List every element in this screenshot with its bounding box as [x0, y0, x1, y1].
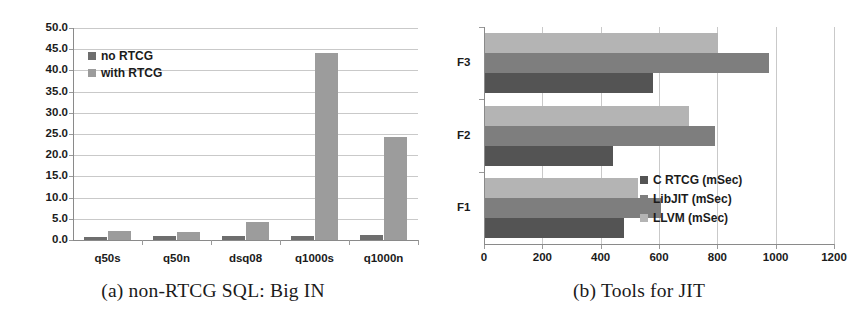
x-axis-tick-mark: [142, 240, 143, 245]
y-tick-label: F3: [457, 57, 470, 69]
y-tick-label: 20.0: [22, 149, 68, 161]
bar: [246, 222, 269, 240]
bar: [485, 33, 718, 53]
gridline-horizontal: [73, 176, 418, 177]
bar: [315, 53, 338, 240]
chart-panel-a: 0.05.010.015.020.025.030.035.040.045.050…: [0, 0, 426, 328]
x-tick-label: 600: [629, 252, 689, 264]
figure-caption-b: (b) Tools for JIT: [426, 280, 852, 302]
legend-label: LibJIT (mSec): [653, 193, 732, 205]
legend-item: C RTCG (mSec): [640, 170, 742, 189]
x-tick-label: q50n: [137, 253, 217, 265]
x-tick-label: 1200: [804, 252, 852, 264]
x-axis-tick-mark: [418, 240, 419, 245]
gridline-horizontal: [73, 219, 418, 220]
y-tick-label: 35.0: [22, 86, 68, 98]
y-tick-label: 30.0: [22, 107, 68, 119]
bar: [485, 146, 613, 166]
gridline-horizontal: [73, 28, 418, 29]
bar: [485, 53, 769, 73]
y-tick-label: 15.0: [22, 170, 68, 182]
x-tick-label: 800: [687, 252, 747, 264]
gridline-vertical: [776, 27, 777, 244]
bar: [291, 236, 314, 240]
y-axis-line: [73, 28, 74, 240]
y-tick-label: 5.0: [22, 213, 68, 225]
figure-row: 0.05.010.015.020.025.030.035.040.045.050…: [0, 0, 852, 328]
x-axis-tick-mark: [349, 240, 350, 245]
legend-label: with RTCG: [101, 67, 162, 79]
bar: [222, 236, 245, 240]
y-tick-label: 40.0: [22, 64, 68, 76]
legend-item: no RTCG: [88, 47, 162, 64]
x-tick-label: 0: [454, 252, 514, 264]
x-axis-tick-mark: [211, 240, 212, 245]
bar: [485, 198, 661, 218]
legend-a: no RTCG with RTCG: [88, 47, 162, 81]
legend-item: LibJIT (mSec): [640, 189, 742, 208]
legend-label: LLVM (mSec): [653, 212, 728, 224]
legend-swatch-icon: [640, 214, 648, 222]
y-axis-tick-mark: [479, 27, 484, 28]
gridline-horizontal: [73, 134, 418, 135]
gridline-horizontal: [73, 92, 418, 93]
x-axis-line: [484, 244, 834, 245]
legend-swatch-icon: [640, 195, 648, 203]
bar: [485, 73, 653, 93]
x-tick-label: dsq08: [206, 253, 286, 265]
x-tick-label: q1000n: [344, 253, 424, 265]
bar: [485, 126, 715, 146]
x-tick-label: q50s: [68, 253, 148, 265]
gridline-horizontal: [73, 155, 418, 156]
bar: [384, 137, 407, 240]
y-tick-label: F1: [457, 202, 470, 214]
legend-swatch-icon: [640, 176, 648, 184]
figure-caption-a: (a) non-RTCG SQL: Big IN: [0, 280, 426, 302]
chart-panel-b: F1F2F3 020040060080010001200 C RTCG (mSe…: [426, 0, 852, 328]
gridline-horizontal: [73, 113, 418, 114]
bar: [177, 232, 200, 240]
y-axis-tick-mark: [69, 240, 73, 241]
bar: [360, 235, 383, 240]
legend-label: C RTCG (mSec): [653, 174, 742, 186]
bar: [108, 231, 131, 240]
y-tick-label: 50.0: [22, 22, 68, 34]
bar: [84, 237, 107, 240]
bar: [485, 178, 638, 198]
y-tick-label: 45.0: [22, 43, 68, 55]
bar: [485, 218, 624, 238]
y-tick-label: 0.0: [22, 234, 68, 246]
x-tick-label: 1000: [746, 252, 806, 264]
bar: [485, 106, 689, 126]
y-tick-label: 25.0: [22, 128, 68, 140]
x-tick-label: 200: [512, 252, 572, 264]
gridline-horizontal: [73, 240, 418, 241]
legend-b: C RTCG (mSec) LibJIT (mSec) LLVM (mSec): [640, 170, 742, 227]
y-tick-label: F2: [457, 130, 470, 142]
y-tick-label: 10.0: [22, 192, 68, 204]
gridline-horizontal: [73, 198, 418, 199]
gridline-vertical: [834, 27, 835, 244]
legend-item: with RTCG: [88, 64, 162, 81]
x-axis-tick-mark: [834, 244, 835, 249]
x-tick-label: 400: [571, 252, 631, 264]
legend-swatch-icon: [88, 52, 96, 60]
y-axis-tick-mark: [479, 99, 484, 100]
x-axis-tick-mark: [280, 240, 281, 245]
legend-swatch-icon: [88, 69, 96, 77]
legend-item: LLVM (mSec): [640, 208, 742, 227]
bar: [153, 236, 176, 240]
x-tick-label: q1000s: [275, 253, 355, 265]
y-axis-tick-mark: [479, 172, 484, 173]
legend-label: no RTCG: [101, 50, 153, 62]
